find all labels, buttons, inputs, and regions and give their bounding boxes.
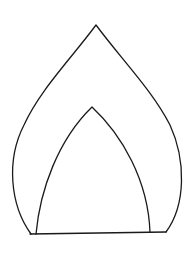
flame-arch-outline-icon [0,0,196,256]
base-line [30,232,166,234]
inner-arch-outline [36,107,150,234]
arch-drawing [0,0,196,256]
outer-arch-outline [13,25,182,234]
